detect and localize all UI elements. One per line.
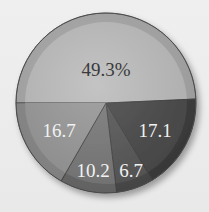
slice-label: 16.7 xyxy=(42,120,75,141)
slice-label: 6.7 xyxy=(119,160,143,181)
pie-chart: 49.3%17.16.710.216.7 xyxy=(0,0,209,212)
pie-chart-svg: 49.3%17.16.710.216.7 xyxy=(0,0,209,212)
slice-label: 10.2 xyxy=(76,160,109,181)
slice-label: 49.3% xyxy=(81,59,130,80)
slice-label: 17.1 xyxy=(138,120,171,141)
